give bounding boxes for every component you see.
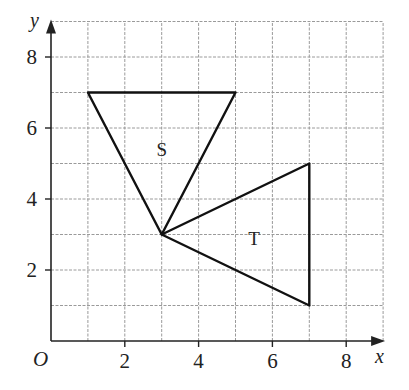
shape-label-s: S bbox=[156, 139, 167, 160]
y-tick-label: 8 bbox=[27, 45, 38, 69]
y-axis-arrow-icon bbox=[46, 20, 56, 34]
y-tick-label: 6 bbox=[27, 116, 38, 140]
x-tick-label: 4 bbox=[193, 349, 204, 373]
coordinate-grid: 24682468OxyST bbox=[0, 0, 409, 390]
shape-label-t: T bbox=[248, 228, 260, 249]
axes bbox=[45, 20, 385, 348]
x-tick-label: 8 bbox=[341, 349, 352, 373]
x-tick-label: 6 bbox=[267, 349, 278, 373]
y-tick-label: 2 bbox=[27, 258, 38, 282]
grid-lines bbox=[51, 22, 383, 342]
origin-label: O bbox=[33, 347, 48, 371]
y-axis-label: y bbox=[28, 9, 39, 32]
labels: 24682468OxyST bbox=[27, 9, 385, 374]
x-tick-label: 2 bbox=[120, 349, 131, 373]
x-axis-label: x bbox=[374, 345, 384, 367]
y-tick-label: 4 bbox=[27, 187, 38, 211]
